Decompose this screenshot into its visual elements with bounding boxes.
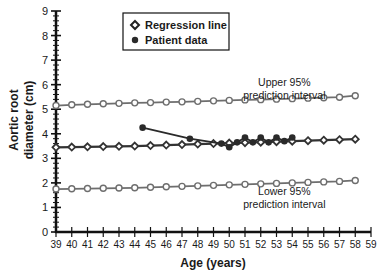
x-tick-label: 40 <box>66 239 78 250</box>
open-circle-marker-icon <box>352 93 358 99</box>
open-circle-marker-icon <box>352 177 358 183</box>
y-tick-label: 6 <box>42 79 48 91</box>
x-tick-label: 46 <box>161 239 173 250</box>
legend: Regression line Patient data <box>123 13 229 50</box>
open-circle-marker-icon <box>321 179 327 185</box>
open-circle-marker-icon <box>337 178 343 184</box>
open-circle-marker-icon <box>132 185 138 191</box>
y-axis-title: Aortic root diameter (cm) <box>7 81 36 160</box>
y-tick-label: 2 <box>42 177 48 189</box>
x-tick-label: 44 <box>129 239 141 250</box>
open-circle-marker-icon <box>100 101 106 107</box>
diamond-marker-icon <box>305 137 312 144</box>
diamond-marker-icon <box>84 143 91 150</box>
open-circle-marker-icon <box>211 98 217 104</box>
upper-interval-label: prediction interval <box>243 89 325 101</box>
x-axis: 3940414243444546474849505152535455565758… <box>50 227 377 250</box>
x-tick-label: 45 <box>145 239 157 250</box>
diamond-marker-icon <box>131 143 138 150</box>
x-tick-label: 39 <box>50 239 62 250</box>
open-circle-marker-icon <box>116 185 122 191</box>
x-tick-label: 50 <box>224 239 236 250</box>
filled-circle-marker-icon <box>257 134 264 141</box>
open-circle-marker-icon <box>69 102 75 108</box>
y-axis: 0123456789 <box>42 5 61 238</box>
diamond-marker-icon <box>336 136 343 143</box>
open-circle-marker-icon <box>163 99 169 105</box>
open-circle-marker-icon <box>226 182 232 188</box>
x-tick-label: 55 <box>302 239 314 250</box>
diamond-marker-icon <box>68 144 75 151</box>
filled-circle-marker-icon <box>132 37 138 43</box>
x-tick-label: 54 <box>287 239 299 250</box>
y-tick-label: 8 <box>42 30 48 42</box>
filled-circle-marker-icon <box>139 124 146 131</box>
x-tick-label: 41 <box>82 239 94 250</box>
series-patient-data <box>139 124 295 150</box>
filled-circle-marker-icon <box>242 134 249 141</box>
x-tick-label: 53 <box>271 239 283 250</box>
diamond-marker-icon <box>179 141 186 148</box>
open-circle-marker-icon <box>242 181 248 187</box>
open-circle-marker-icon <box>226 97 232 103</box>
filled-circle-marker-icon <box>289 134 296 141</box>
diamond-marker-icon <box>352 136 359 143</box>
diamond-marker-icon <box>320 137 327 144</box>
open-circle-marker-icon <box>195 98 201 104</box>
open-circle-marker-icon <box>69 186 75 192</box>
open-circle-marker-icon <box>195 183 201 189</box>
y-tick-label: 4 <box>42 128 48 140</box>
open-circle-marker-icon <box>211 182 217 188</box>
x-tick-label: 42 <box>98 239 110 250</box>
diamond-marker-icon <box>194 141 201 148</box>
open-circle-marker-icon <box>337 94 343 100</box>
x-tick-label: 49 <box>208 239 220 250</box>
y-tick-label: 3 <box>42 152 48 164</box>
series-layer <box>53 93 359 192</box>
legend-label-regression: Regression line <box>145 19 227 31</box>
aortic-root-chart: 0123456789 39404142434445464748495051525… <box>0 0 385 274</box>
x-tick-label: 48 <box>192 239 204 250</box>
x-tick-label: 58 <box>350 239 362 250</box>
filled-circle-marker-icon <box>265 139 272 146</box>
lower-interval-label: Lower 95% <box>258 185 311 197</box>
open-circle-marker-icon <box>85 101 91 107</box>
open-circle-marker-icon <box>148 100 154 106</box>
x-tick-label: 56 <box>318 239 330 250</box>
diamond-marker-icon <box>147 142 154 149</box>
series-regression-line <box>53 136 359 151</box>
y-tick-label: 0 <box>42 226 48 238</box>
open-circle-marker-icon <box>85 186 91 192</box>
y-tick-label: 9 <box>42 5 48 17</box>
open-circle-marker-icon <box>53 103 59 109</box>
x-tick-label: 43 <box>113 239 125 250</box>
filled-circle-marker-icon <box>273 134 280 141</box>
y-tick-label: 5 <box>42 103 48 115</box>
filled-circle-marker-icon <box>226 144 233 151</box>
x-tick-label: 47 <box>176 239 188 250</box>
open-circle-marker-icon <box>163 184 169 190</box>
upper-interval-label: Upper 95% <box>258 76 311 88</box>
legend-label-patient: Patient data <box>145 34 208 46</box>
filled-circle-marker-icon <box>234 139 241 146</box>
lower-interval-label: prediction interval <box>243 198 325 210</box>
diamond-marker-icon <box>116 143 123 150</box>
svg-text:diameter (cm): diameter (cm) <box>22 81 36 160</box>
filled-circle-marker-icon <box>250 139 257 146</box>
diamond-marker-icon <box>53 144 60 151</box>
x-tick-label: 57 <box>334 239 346 250</box>
series-lower-95-prediction-interval <box>53 177 358 192</box>
filled-circle-marker-icon <box>218 140 225 147</box>
filled-circle-marker-icon <box>187 135 194 142</box>
y-tick-label: 1 <box>42 201 48 213</box>
open-circle-marker-icon <box>148 184 154 190</box>
legend-entry-regression: Regression line <box>131 19 227 31</box>
filled-circle-marker-icon <box>281 138 288 145</box>
x-tick-label: 51 <box>239 239 251 250</box>
open-circle-marker-icon <box>132 100 138 106</box>
x-tick-label: 59 <box>365 239 377 250</box>
svg-text:Aortic root: Aortic root <box>7 89 21 150</box>
open-circle-marker-icon <box>116 100 122 106</box>
diamond-marker-icon <box>163 142 170 149</box>
x-axis-title: Age (years) <box>180 256 245 270</box>
